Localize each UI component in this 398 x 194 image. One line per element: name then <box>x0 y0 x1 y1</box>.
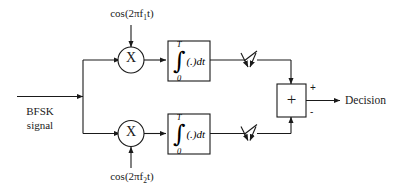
lower-integral-body: (.)dt <box>186 128 205 140</box>
lower-integral-sign: ∫ <box>173 122 186 146</box>
upper-integral-operator: T ∫ 0 <box>173 39 186 83</box>
sum-positive-sign: + <box>310 83 316 94</box>
upper-multiplier-symbol: X <box>118 51 144 66</box>
lower-integrator-content: T ∫ 0 (.)dt <box>168 114 210 154</box>
upper-carrier-tail: t) <box>147 7 154 19</box>
summing-junction-symbol: + <box>277 91 306 109</box>
lower-carrier-label: cos(2πf2t) <box>99 171 165 185</box>
lower-integral-operator: T ∫ 0 <box>173 112 186 156</box>
input-signal-label-line2: signal <box>27 119 53 131</box>
lower-multiplier-symbol: X <box>118 125 144 140</box>
input-signal-label-line1: BFSK <box>26 105 54 117</box>
upper-integral-sign: ∫ <box>173 49 186 73</box>
lower-carrier-tail: t) <box>147 170 154 182</box>
upper-integrator-content: T ∫ 0 (.)dt <box>168 41 210 81</box>
bfsk-receiver-diagram: cos(2πf1t) cos(2πf2t) BFSKsignal X X T ∫… <box>0 0 398 194</box>
lower-carrier-text: cos(2πf <box>110 170 143 182</box>
lower-integral-lower-limit: 0 <box>177 146 181 156</box>
decision-output-label: Decision <box>345 94 386 106</box>
upper-carrier-text: cos(2πf <box>110 7 143 19</box>
upper-integral-lower-limit: 0 <box>177 73 181 83</box>
diagram-canvas <box>0 0 398 194</box>
upper-integral-body: (.)dt <box>186 55 205 67</box>
input-signal-label: BFSKsignal <box>10 105 70 133</box>
sum-negative-sign: - <box>310 107 313 118</box>
upper-carrier-label: cos(2πf1t) <box>99 8 165 22</box>
